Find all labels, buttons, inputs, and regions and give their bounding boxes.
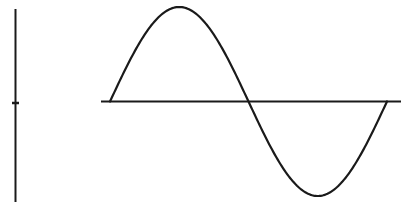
sine-wave-diagram <box>0 0 408 208</box>
